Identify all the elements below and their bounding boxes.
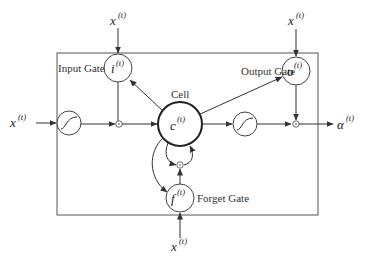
input-x-left: x bbox=[9, 115, 16, 130]
cell-node bbox=[158, 102, 202, 146]
cell-label: Cell bbox=[171, 88, 189, 100]
arrow-cell-to-forget-gate bbox=[152, 138, 167, 192]
output-gate-symbol: o bbox=[287, 64, 294, 79]
dot-icon bbox=[118, 123, 120, 125]
input-x-top-left: x bbox=[109, 13, 116, 28]
forget-gate-label: Forget Gate bbox=[197, 192, 249, 204]
input-x-top-right-sup: (t) bbox=[296, 10, 304, 20]
input-x-left-sup: (t) bbox=[18, 112, 26, 122]
dot-icon bbox=[179, 164, 181, 166]
input-x-top-left-sup: (t) bbox=[118, 10, 126, 20]
input-gate-sup: (t) bbox=[116, 58, 124, 68]
arrow-cell-to-input-gate bbox=[130, 80, 164, 112]
input-x-bottom: x bbox=[170, 239, 177, 254]
input-x-top-right: x bbox=[287, 13, 294, 28]
forget-gate-sup: (t) bbox=[177, 187, 185, 197]
cell-symbol: c bbox=[170, 118, 176, 133]
output-gate-sup: (t) bbox=[294, 60, 302, 70]
input-gate-label: Input Gate bbox=[58, 62, 105, 74]
lstm-diagram: Input Gate Output Gate Forget Gate Cell … bbox=[0, 0, 367, 264]
input-squash-node bbox=[57, 111, 81, 135]
input-x-bottom-sup: (t) bbox=[179, 236, 187, 246]
output-squash-node bbox=[233, 112, 257, 136]
dot-icon bbox=[295, 123, 297, 125]
output-alpha: α bbox=[337, 117, 345, 132]
input-gate-symbol: i bbox=[111, 61, 115, 76]
cell-sup: (t) bbox=[177, 114, 185, 124]
output-alpha-sup: (t) bbox=[346, 113, 354, 123]
loop-multiply-to-cell bbox=[184, 146, 192, 165]
arrow-cell-to-output-gate bbox=[198, 77, 282, 115]
